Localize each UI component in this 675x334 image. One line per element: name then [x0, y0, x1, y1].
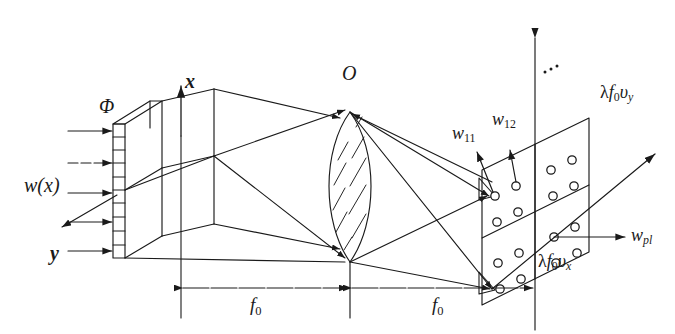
label-f0-right: f0	[432, 295, 444, 317]
label-w11: w11	[452, 124, 475, 145]
ray-bundle-left	[214, 89, 345, 258]
spot-w11	[491, 192, 499, 200]
nux-sub: x	[566, 259, 571, 273]
nuy-lambda: λ	[600, 82, 609, 102]
nuy-nu: υ	[620, 82, 628, 102]
beam-envelope-box	[125, 89, 214, 236]
lens-body	[329, 112, 371, 262]
nuy-sub: y	[628, 90, 633, 104]
input-plane-slab	[113, 101, 162, 258]
input-illumination-arrows	[68, 131, 112, 251]
figure-canvas: Φ w(x) x y O f0 f0 w11 w12 wpl λf0υy λf0…	[0, 0, 675, 334]
wpl-sub: pl	[643, 233, 652, 247]
w12-sub: 12	[504, 117, 516, 131]
optical-diagram-svg	[0, 0, 675, 334]
label-f0-left: f0	[250, 295, 262, 317]
w11-base: w	[452, 123, 464, 143]
spot-lower-left	[496, 285, 504, 293]
nux-nu: υ	[558, 251, 566, 271]
label-lambda-f0-nu-y: λf0υy	[600, 83, 633, 104]
label-wpl: wpl	[631, 226, 652, 247]
label-axis-y: y	[50, 243, 59, 263]
spot-w12	[547, 166, 555, 174]
f0-right-sub: 0	[437, 304, 443, 318]
f0-left-sub: 0	[255, 304, 261, 318]
wpl-base: w	[631, 225, 643, 245]
label-axis-x: x	[185, 71, 195, 91]
ellipsis-dots	[544, 65, 559, 74]
nux-lambda: λ	[538, 251, 547, 271]
label-lens-O: O	[342, 63, 356, 83]
label-phi: Φ	[99, 96, 114, 116]
w11-sub: 11	[464, 131, 475, 145]
label-w12: w12	[492, 110, 516, 131]
label-w-of-x: w(x)	[24, 175, 60, 195]
w12-base: w	[492, 109, 504, 129]
label-lambda-f0-nu-x: λf0υx	[538, 252, 571, 273]
